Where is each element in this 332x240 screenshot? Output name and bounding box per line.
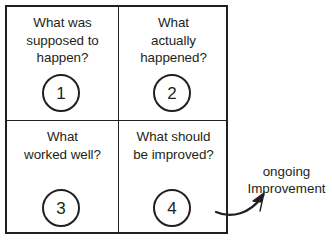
quadrant-1-question: What was supposed to happen? — [7, 14, 118, 67]
quadrant-4-number: 4 — [167, 200, 176, 217]
quadrant-3-question: What worked well? — [7, 128, 118, 163]
quadrant-cell-3[interactable]: What worked well? 3 — [7, 120, 118, 232]
quadrant-4-question: What should be improved? — [119, 128, 228, 163]
quadrant-2-number-badge: 2 — [153, 74, 191, 112]
quadrant-grid: What was supposed to happen? 1 What actu… — [5, 5, 228, 234]
quadrant-1-number: 1 — [56, 85, 65, 102]
quadrant-3-number: 3 — [56, 200, 65, 217]
quadrant-1-number-badge: 1 — [42, 74, 80, 112]
ongoing-improvement-label: ongoing Improvement — [241, 163, 332, 197]
quadrant-cell-2[interactable]: What actually happened? 2 — [118, 7, 228, 120]
quadrant-4-number-badge: 4 — [153, 189, 191, 227]
quadrant-2-question: What actually happened? — [119, 14, 228, 67]
diagram-canvas: What was supposed to happen? 1 What actu… — [0, 0, 332, 240]
quadrant-3-number-badge: 3 — [42, 189, 80, 227]
quadrant-cell-1[interactable]: What was supposed to happen? 1 — [7, 7, 118, 120]
quadrant-2-number: 2 — [167, 85, 176, 102]
